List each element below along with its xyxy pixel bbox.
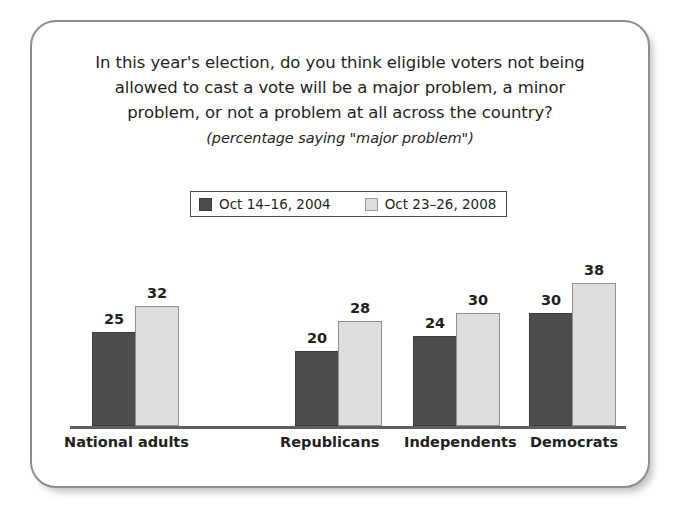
bar-value-national-adults-2008: 32 <box>135 285 179 301</box>
bar-national-adults-2008 <box>135 306 179 426</box>
bar-value-republicans-2004: 20 <box>295 330 339 346</box>
plot-area: 2532202824303038 National adultsRepublic… <box>32 22 652 490</box>
category-label-democrats: Democrats <box>530 434 618 450</box>
bar-national-adults-2004 <box>92 332 136 426</box>
bar-democrats-2004 <box>529 313 573 426</box>
bar-value-independents-2004: 24 <box>413 315 457 331</box>
bar-value-republicans-2008: 28 <box>338 300 382 316</box>
bar-value-democrats-2004: 30 <box>529 292 573 308</box>
bar-value-democrats-2008: 38 <box>572 262 616 278</box>
bar-republicans-2008 <box>338 321 382 426</box>
bar-value-national-adults-2004: 25 <box>92 311 136 327</box>
bar-democrats-2008 <box>572 283 616 426</box>
category-label-independents: Independents <box>404 434 517 450</box>
category-label-republicans: Republicans <box>280 434 379 450</box>
chart-frame: In this year's election, do you think el… <box>30 20 650 488</box>
bar-value-independents-2008: 30 <box>456 292 500 308</box>
bar-independents-2008 <box>456 313 500 426</box>
bar-republicans-2004 <box>295 351 339 426</box>
category-label-national-adults: National adults <box>64 434 189 450</box>
x-axis-baseline <box>70 426 626 429</box>
bar-independents-2004 <box>413 336 457 426</box>
